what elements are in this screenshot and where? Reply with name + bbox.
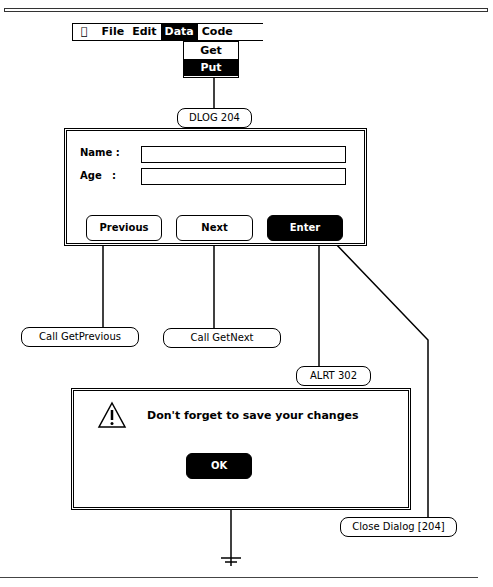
menu-item-put[interactable]: Put bbox=[184, 59, 238, 76]
apple-icon[interactable]:  bbox=[73, 24, 98, 40]
menu-data[interactable]: Data bbox=[161, 24, 198, 40]
dlog-tag: DLOG 204 bbox=[177, 108, 252, 128]
menu-item-get[interactable]: Get bbox=[184, 42, 238, 59]
previous-button[interactable]: Previous bbox=[86, 215, 162, 241]
data-menu-dropdown: Get Put bbox=[183, 41, 239, 78]
age-label: Age : bbox=[80, 170, 116, 181]
warning-icon bbox=[97, 401, 127, 429]
age-field[interactable] bbox=[141, 168, 346, 185]
call-getprevious-tag: Call GetPrevious bbox=[21, 327, 139, 347]
name-field[interactable] bbox=[141, 146, 346, 163]
enter-button[interactable]: Enter bbox=[267, 215, 343, 241]
call-getnext-tag: Call GetNext bbox=[163, 328, 281, 348]
menu-code[interactable]: Code bbox=[198, 24, 237, 40]
ok-button[interactable]: OK bbox=[186, 453, 252, 479]
alrt-tag: ALRT 302 bbox=[296, 366, 371, 386]
alert-message: Don't forget to save your changes bbox=[147, 409, 359, 422]
next-button[interactable]: Next bbox=[176, 215, 253, 241]
menu-bar:  File Edit Data Code bbox=[72, 23, 263, 41]
bottom-rule bbox=[0, 577, 478, 578]
data-entry-dialog: Name : Age : Previous Next Enter bbox=[64, 128, 367, 246]
menu-file[interactable]: File bbox=[98, 24, 129, 40]
name-label: Name : bbox=[80, 147, 120, 158]
menu-edit[interactable]: Edit bbox=[128, 24, 160, 40]
close-dialog-tag: Close Dialog [204] bbox=[340, 517, 457, 537]
alert-dialog: Don't forget to save your changes OK bbox=[71, 388, 411, 510]
